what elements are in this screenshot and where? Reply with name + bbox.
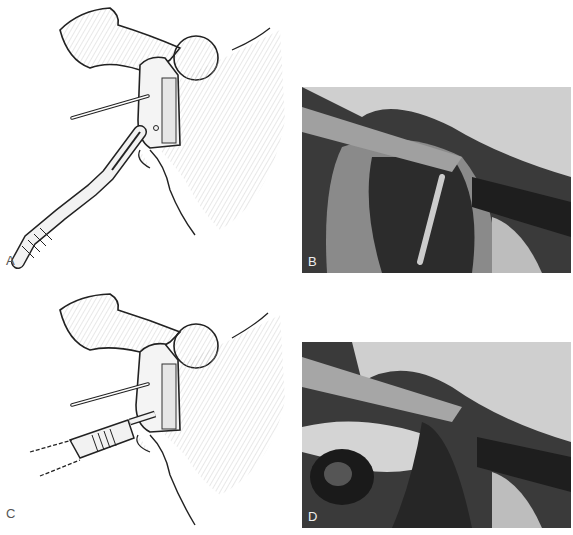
panel-d-photo: D — [302, 342, 571, 528]
panel-label-c: C — [6, 506, 15, 521]
panel-label-d: D — [308, 509, 317, 524]
bone-drawing-c — [0, 280, 290, 535]
panel-c-illustration: C — [0, 280, 290, 535]
panel-label-b: B — [308, 254, 317, 269]
panel-b-photo: B — [302, 87, 571, 273]
panel-a-illustration: A — [0, 0, 290, 280]
surgical-photo-b — [302, 87, 571, 273]
bone-drawing-a — [0, 0, 290, 280]
surgical-photo-d — [302, 342, 571, 528]
panel-label-a: A — [6, 253, 15, 268]
